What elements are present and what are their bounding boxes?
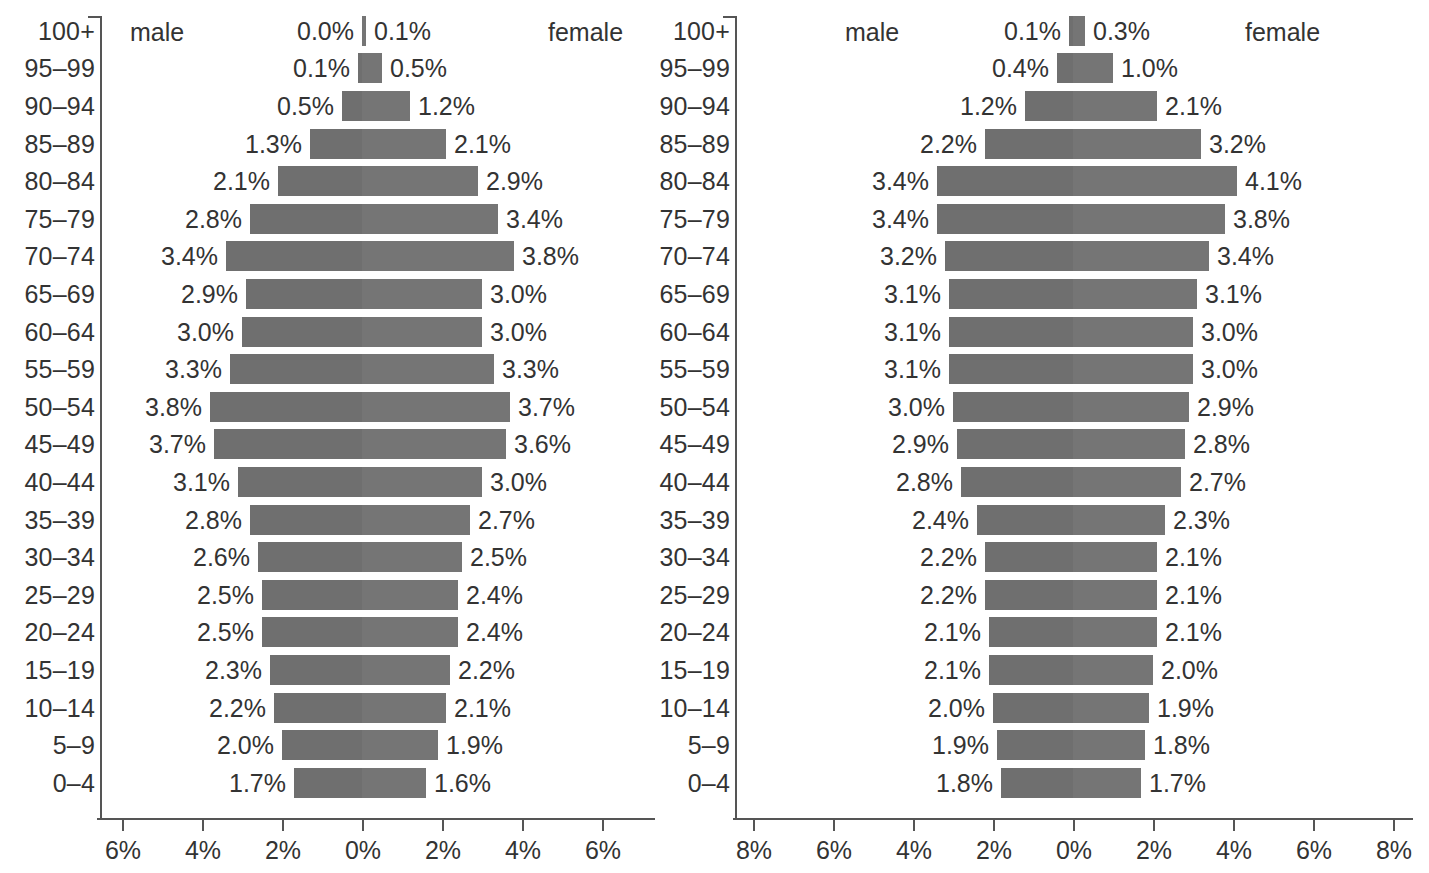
x-axis-tick-label: 8% (736, 836, 772, 865)
value-label-female: 3.4% (506, 204, 563, 233)
bar-female (1073, 429, 1185, 459)
pyramid-row: 60–643.1%3.0% (700, 313, 1429, 351)
value-label-male: 3.4% (161, 242, 218, 271)
pyramid-row: 85–891.3%2.1% (0, 125, 700, 163)
value-label-female: 0.3% (1093, 16, 1150, 45)
bar-female (1073, 768, 1141, 798)
value-label-male: 3.0% (177, 317, 234, 346)
age-group-label: 15–19 (24, 655, 95, 684)
bar-female (1073, 241, 1209, 271)
bar-female (362, 429, 506, 459)
age-group-label: 40–44 (659, 467, 730, 496)
x-axis-tick (1153, 820, 1155, 831)
category-axis-cap (723, 16, 737, 18)
pyramid-row: 50–543.0%2.9% (700, 388, 1429, 426)
age-group-label: 40–44 (24, 467, 95, 496)
x-axis-tick-label: 2% (976, 836, 1012, 865)
age-group-label: 70–74 (24, 242, 95, 271)
pyramid-row: 95–990.1%0.5% (0, 50, 700, 88)
pyramid-row: 65–693.1%3.1% (700, 275, 1429, 313)
bar-male (258, 542, 362, 572)
pyramid-row: 55–593.3%3.3% (0, 350, 700, 388)
x-axis-tick (1313, 820, 1315, 831)
x-axis-tick-label: 6% (816, 836, 852, 865)
x-axis-tick-label: 4% (505, 836, 541, 865)
value-label-male: 0.4% (992, 54, 1049, 83)
value-label-male: 2.8% (185, 505, 242, 534)
age-group-label: 15–19 (659, 655, 730, 684)
x-axis-tick (602, 820, 604, 831)
age-group-label: 80–84 (659, 167, 730, 196)
legend-male-caption: male (130, 18, 184, 47)
value-label-male: 3.7% (149, 430, 206, 459)
bar-male (997, 730, 1073, 760)
value-label-female: 0.5% (390, 54, 447, 83)
bar-female (1073, 693, 1149, 723)
pyramid-row: 25–292.5%2.4% (0, 576, 700, 614)
value-label-female: 1.2% (418, 91, 475, 120)
value-label-male: 1.2% (960, 91, 1017, 120)
value-label-male: 2.8% (896, 467, 953, 496)
age-group-label: 60–64 (24, 317, 95, 346)
pyramid-row: 75–792.8%3.4% (0, 200, 700, 238)
x-axis-tick (1233, 820, 1235, 831)
pyramid-row: 45–492.9%2.8% (700, 426, 1429, 464)
age-group-label: 60–64 (659, 317, 730, 346)
x-axis-tick (122, 820, 124, 831)
bar-male (1025, 91, 1073, 121)
bar-male (270, 655, 362, 685)
value-label-male: 2.2% (209, 693, 266, 722)
age-group-label: 50–54 (659, 392, 730, 421)
pyramid-row: 20–242.1%2.1% (700, 614, 1429, 652)
bar-male (993, 693, 1073, 723)
value-label-female: 3.3% (502, 355, 559, 384)
pyramid-row: 35–392.8%2.7% (0, 501, 700, 539)
x-axis-tick (753, 820, 755, 831)
value-label-female: 1.9% (446, 731, 503, 760)
x-axis-tick-label: 6% (1296, 836, 1332, 865)
pyramid-row: 45–493.7%3.6% (0, 426, 700, 464)
x-axis-tick-label: 0% (345, 836, 381, 865)
value-label-male: 3.3% (165, 355, 222, 384)
bar-female (362, 392, 510, 422)
age-group-label: 0–4 (688, 768, 730, 797)
value-label-male: 2.9% (892, 430, 949, 459)
value-label-male: 2.1% (924, 655, 981, 684)
age-group-label: 50–54 (24, 392, 95, 421)
x-axis-tick (442, 820, 444, 831)
bar-male (230, 354, 362, 384)
value-label-male: 2.1% (924, 618, 981, 647)
value-label-male: 2.2% (920, 580, 977, 609)
bar-male (262, 617, 362, 647)
pyramid-row: 40–442.8%2.7% (700, 463, 1429, 501)
age-group-label: 45–49 (659, 430, 730, 459)
bar-male (246, 279, 362, 309)
value-label-female: 3.0% (490, 467, 547, 496)
pyramid-row: 95–990.4%1.0% (700, 50, 1429, 88)
age-group-label: 95–99 (24, 54, 95, 83)
bar-male (961, 467, 1073, 497)
value-label-male: 2.3% (205, 655, 262, 684)
age-group-label: 70–74 (659, 242, 730, 271)
value-label-male: 2.2% (920, 543, 977, 572)
age-group-label: 75–79 (24, 204, 95, 233)
pyramid-row: 10–142.2%2.1% (0, 689, 700, 727)
value-label-female: 3.7% (518, 392, 575, 421)
pyramid-row: 60–643.0%3.0% (0, 313, 700, 351)
value-label-male: 0.1% (1004, 16, 1061, 45)
value-label-female: 2.0% (1161, 655, 1218, 684)
value-label-female: 2.1% (454, 129, 511, 158)
pyramid-row: 90–940.5%1.2% (0, 87, 700, 125)
pyramid-row: 75–793.4%3.8% (700, 200, 1429, 238)
value-label-female: 1.8% (1153, 731, 1210, 760)
bar-male (274, 693, 362, 723)
pyramid-row: 90–941.2%2.1% (700, 87, 1429, 125)
bar-male (310, 129, 362, 159)
pyramid-row: 0–41.8%1.7% (700, 764, 1429, 802)
value-label-female: 3.0% (1201, 355, 1258, 384)
value-label-male: 3.8% (145, 392, 202, 421)
bar-male (985, 542, 1073, 572)
value-label-female: 2.9% (486, 167, 543, 196)
value-label-male: 1.9% (932, 731, 989, 760)
x-axis-tick (1073, 820, 1075, 831)
